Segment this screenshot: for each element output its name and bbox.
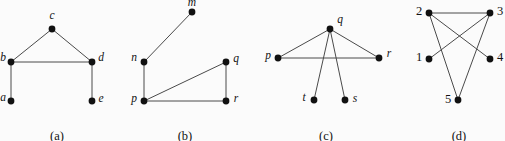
graph-node-c-t xyxy=(311,97,318,104)
graph-edge-d-3-5 xyxy=(458,13,490,100)
graph-node-c-r xyxy=(376,55,383,62)
graph-panel-b xyxy=(141,9,230,105)
graph-node-a-d xyxy=(89,59,96,66)
graph-node-a-b xyxy=(8,59,15,66)
graph-node-d-5 xyxy=(455,97,462,104)
graph-node-label-b-r: r xyxy=(234,93,238,105)
graph-node-label-b-n: n xyxy=(131,52,137,64)
graph-panel-a xyxy=(8,26,96,105)
graph-figure: cbdae(a)mnqpr(b)qprts(c)23145(d) xyxy=(0,0,505,141)
graph-node-d-2 xyxy=(426,10,433,17)
graph-node-label-a-e: e xyxy=(98,93,103,105)
graph-node-label-d-1: 1 xyxy=(416,51,422,64)
graph-node-label-a-d: d xyxy=(98,52,104,64)
graph-panel-d xyxy=(426,10,494,104)
graph-node-a-a xyxy=(8,98,15,105)
graph-node-b-p xyxy=(141,98,148,105)
graph-node-label-a-b: b xyxy=(0,52,6,64)
graph-node-label-b-q: q xyxy=(233,53,239,65)
graph-node-label-d-4: 4 xyxy=(497,51,503,64)
graph-node-d-4 xyxy=(487,56,494,63)
graph-node-c-s xyxy=(342,97,349,104)
graph-node-label-c-q: q xyxy=(337,14,343,26)
graph-node-d-3 xyxy=(487,10,494,17)
graph-node-label-c-p: p xyxy=(265,50,271,62)
graph-edge-c-q-s xyxy=(330,29,345,100)
graph-node-label-b-m: m xyxy=(188,0,196,9)
graph-edge-a-b-c xyxy=(11,29,52,62)
graph-node-b-r xyxy=(223,98,230,105)
graph-node-c-q xyxy=(327,26,334,33)
graph-edge-c-p-q xyxy=(278,29,330,58)
graph-node-b-q xyxy=(223,59,230,66)
graph-node-label-a-a: a xyxy=(0,92,6,104)
graph-edge-b-m-n xyxy=(144,12,192,62)
graph-edge-d-2-5 xyxy=(429,13,458,100)
graph-edge-c-q-t xyxy=(314,29,330,100)
graph-node-a-c xyxy=(49,26,56,33)
graph-caption-b: (b) xyxy=(178,129,193,141)
graph-caption-d: (d) xyxy=(452,129,467,141)
graph-node-label-b-p: p xyxy=(131,93,137,105)
graph-node-c-p xyxy=(275,55,282,62)
graph-panel-c xyxy=(275,26,383,104)
graph-node-label-c-s: s xyxy=(353,93,357,105)
graph-edge-b-p-q xyxy=(144,62,226,101)
graph-edge-a-c-d xyxy=(52,29,92,62)
graph-node-label-d-2: 2 xyxy=(416,5,422,18)
graph-node-label-a-c: c xyxy=(49,10,54,22)
graph-node-label-d-3: 3 xyxy=(497,5,503,18)
graph-node-b-m xyxy=(189,9,196,16)
graph-node-a-e xyxy=(89,98,96,105)
graph-caption-c: (c) xyxy=(319,129,333,141)
graph-node-label-c-r: r xyxy=(387,48,391,60)
graph-drawing-layer xyxy=(0,0,505,141)
graph-edge-c-q-r xyxy=(330,29,379,58)
graph-caption-a: (a) xyxy=(50,129,64,141)
graph-node-d-1 xyxy=(426,56,433,63)
graph-node-label-c-t: t xyxy=(302,92,305,104)
graph-node-label-d-5: 5 xyxy=(445,93,451,106)
graph-node-b-n xyxy=(141,59,148,66)
